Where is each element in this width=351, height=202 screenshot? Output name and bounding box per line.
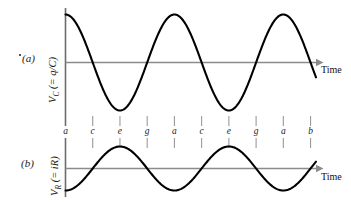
panel-a-tag-dot	[19, 54, 21, 56]
tick-rail-group	[66, 112, 311, 148]
panel-a-y-axis-label-main: V	[47, 97, 58, 103]
panel-a-y-axis-label-sub: C	[52, 92, 61, 97]
panel-a-y-axis-label-rest: (= q/C)	[47, 57, 58, 92]
panel-a-group	[66, 8, 324, 112]
panel-b-y-axis-label-main: V	[49, 190, 60, 196]
panel-b-group	[66, 140, 324, 197]
panel-b-y-axis-label-rest: (= iR)	[49, 156, 60, 185]
point-label-g-3: g	[140, 126, 154, 136]
panel-a-tag: (a)	[19, 52, 35, 64]
panel-b-y-axis-label: VR (= iR)	[49, 156, 63, 196]
panel-a-x-axis-label: Time	[321, 64, 342, 75]
point-label-c-5: c	[195, 126, 209, 136]
panel-b-x-axis-label: Time	[321, 171, 342, 182]
point-label-b-9: b	[304, 126, 318, 136]
point-label-e-2: e	[113, 126, 127, 136]
point-label-c-1: c	[86, 126, 100, 136]
panel-a-y-axis-label: VC (= q/C)	[47, 57, 61, 103]
panel-b-y-axis-label-sub: R	[54, 185, 63, 190]
point-label-a-0: a	[59, 126, 73, 136]
point-label-g-7: g	[249, 126, 263, 136]
rc-circuit-voltage-figure: (a) (b) VC (= q/C) VR (= iR) Time Time a…	[0, 0, 351, 202]
panel-a-tag-text: (a)	[22, 52, 35, 64]
point-label-a-4: a	[167, 126, 181, 136]
point-label-a-8: a	[276, 126, 290, 136]
panel-b-tag: (b)	[21, 157, 34, 169]
point-label-e-6: e	[222, 126, 236, 136]
